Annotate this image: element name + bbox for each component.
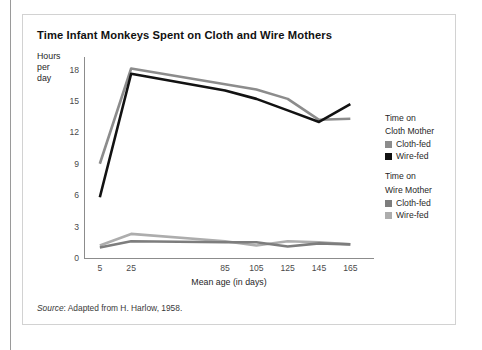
legend-item-label: Wire-fed bbox=[396, 210, 428, 221]
legend-group: Time onWire MotherCloth-fedWire-fed bbox=[385, 171, 457, 220]
series-line bbox=[100, 69, 351, 164]
legend-group-heading: Wire Mother bbox=[385, 185, 457, 196]
y-tick-label: 18 bbox=[69, 65, 79, 75]
source-text: : Adapted from H. Harlow, 1958. bbox=[64, 303, 183, 313]
page-gutter-rule bbox=[10, 0, 11, 350]
figure-page: Time Infant Monkeys Spent on Cloth and W… bbox=[0, 0, 482, 350]
legend-group: Time onCloth MotherCloth-fedWire-fed bbox=[385, 113, 457, 162]
x-axis-label: Mean age (in days) bbox=[84, 277, 374, 287]
legend-item-label: Cloth-fed bbox=[396, 198, 431, 209]
series-line bbox=[100, 74, 351, 198]
chart-card: Time Infant Monkeys Spent on Cloth and W… bbox=[22, 14, 456, 325]
y-axis-label-line-1: Hours bbox=[37, 51, 77, 62]
legend-swatch-icon bbox=[385, 153, 392, 160]
legend-item[interactable]: Wire-fed bbox=[385, 210, 457, 221]
legend-swatch-icon bbox=[385, 141, 392, 148]
y-tick-label: 3 bbox=[74, 222, 79, 232]
legend-swatch-icon bbox=[385, 200, 392, 207]
x-tick-label: 25 bbox=[126, 263, 136, 273]
legend-item-label: Cloth-fed bbox=[396, 139, 431, 150]
legend-group-heading: Cloth Mother bbox=[385, 126, 457, 137]
chart-legend: Time onCloth MotherCloth-fedWire-fedTime… bbox=[385, 113, 457, 230]
y-tick-label: 9 bbox=[74, 159, 79, 169]
legend-item[interactable]: Cloth-fed bbox=[385, 198, 457, 209]
y-axis-label-line-3: day bbox=[37, 73, 77, 84]
series-lines bbox=[84, 45, 374, 260]
y-tick-label: 15 bbox=[69, 96, 79, 106]
x-tick-label: 85 bbox=[220, 263, 230, 273]
y-tick-label: 6 bbox=[74, 190, 79, 200]
y-tick-label: 0 bbox=[74, 253, 79, 263]
x-tick-label: 105 bbox=[249, 263, 263, 273]
legend-group-heading: Time on bbox=[385, 113, 457, 124]
y-tick-label: 12 bbox=[69, 127, 79, 137]
legend-swatch-icon bbox=[385, 212, 392, 219]
legend-item[interactable]: Wire-fed bbox=[385, 151, 457, 162]
legend-group-heading: Time on bbox=[385, 171, 457, 182]
x-tick-label: 125 bbox=[281, 263, 295, 273]
chart-title: Time Infant Monkeys Spent on Cloth and W… bbox=[37, 29, 332, 41]
x-tick-label: 165 bbox=[343, 263, 357, 273]
x-tick-label: 145 bbox=[312, 263, 326, 273]
x-tick-label: 5 bbox=[97, 263, 102, 273]
legend-item-label: Wire-fed bbox=[396, 151, 428, 162]
source-note: Source: Adapted from H. Harlow, 1958. bbox=[37, 303, 182, 313]
source-prefix: Source bbox=[37, 303, 64, 313]
legend-item[interactable]: Cloth-fed bbox=[385, 139, 457, 150]
plot-area: 0369121518 52585105125145165 bbox=[84, 45, 374, 260]
